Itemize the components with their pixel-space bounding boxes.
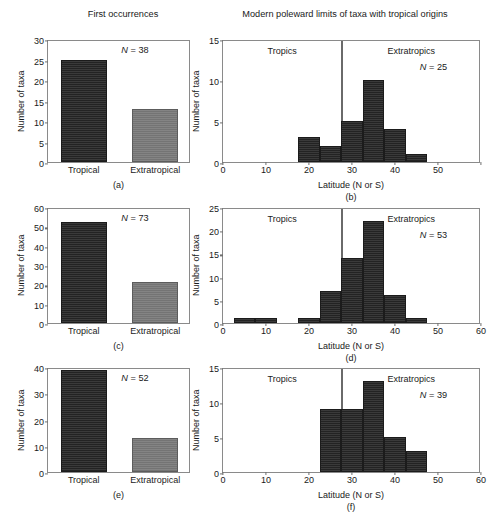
x-tick-mark	[437, 472, 438, 475]
x-tick-label: 50	[433, 476, 443, 485]
x-tick-label: 60	[476, 476, 486, 485]
y-tick-label: 5	[214, 435, 219, 444]
y-tick-label: 15	[209, 365, 219, 374]
axis-label-y: Number of taxa	[191, 389, 201, 451]
x-label-tropical: Tropical	[68, 476, 100, 485]
axis-label-y: Number of taxa	[16, 389, 26, 451]
x-label-extratropical: Extratropical	[130, 476, 180, 485]
x-tick-mark	[351, 472, 352, 475]
x-tick-mark	[480, 472, 481, 475]
panel-letter-e: (e)	[47, 490, 190, 500]
x-tick-mark	[265, 472, 266, 475]
plot-area-f: 0510150102030405060	[222, 368, 480, 473]
region-label-extratropics: Extratropics	[387, 374, 435, 384]
bar-extratropical	[132, 438, 178, 472]
x-tick-label: 10	[261, 476, 271, 485]
y-tick-mark	[45, 368, 48, 369]
histogram-bar	[363, 381, 385, 472]
plot-area-e: 010203040TropicalExtratropical	[47, 368, 190, 473]
y-tick-mark	[220, 403, 223, 404]
x-tick-mark	[308, 472, 309, 475]
y-tick-mark	[45, 421, 48, 422]
y-tick-mark	[220, 438, 223, 439]
y-tick-mark	[45, 447, 48, 448]
x-tick-label: 40	[390, 476, 400, 485]
figure-multipanel-bar-charts: First occurrences Modern poleward limits…	[0, 0, 492, 519]
y-tick-mark	[45, 395, 48, 396]
panel-letter-f: (f)	[222, 502, 480, 512]
bar-tropical	[61, 370, 107, 472]
y-tick-label: 40	[34, 365, 44, 374]
y-tick-mark	[220, 368, 223, 369]
y-tick-label: 0	[214, 470, 219, 479]
n-label-e: N = 52	[121, 373, 148, 383]
histogram-bar	[384, 437, 406, 472]
axis-label-x: Latitude (N or S)	[222, 490, 480, 500]
x-tick-label: 30	[347, 476, 357, 485]
y-tick-label: 0	[39, 470, 44, 479]
histogram-bar	[406, 451, 428, 472]
n-label-f: N = 39	[420, 390, 447, 400]
histogram-bar	[320, 409, 342, 472]
y-tick-label: 30	[34, 391, 44, 400]
x-tick-label: 0	[220, 476, 225, 485]
y-tick-label: 10	[34, 443, 44, 452]
y-tick-label: 20	[34, 417, 44, 426]
x-tick-label: 20	[304, 476, 314, 485]
region-label-tropics: Tropics	[268, 374, 297, 384]
x-tick-mark	[222, 472, 223, 475]
histogram-bar	[341, 409, 363, 472]
x-tick-mark	[394, 472, 395, 475]
y-tick-mark	[45, 473, 48, 474]
y-tick-label: 10	[209, 400, 219, 409]
